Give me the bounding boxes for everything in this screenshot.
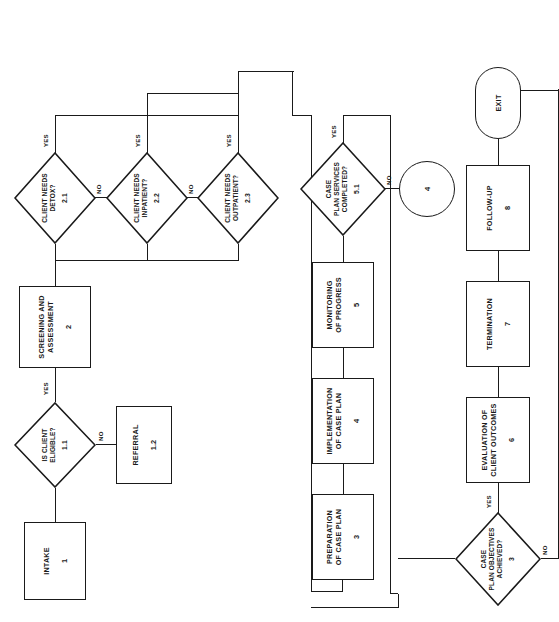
edge-detox-yes xyxy=(55,115,56,153)
label-line-2: ASSESSMENT xyxy=(46,301,55,353)
edge-label-inpatient-yes: YES xyxy=(135,133,141,148)
diamond-shape xyxy=(300,142,386,236)
edge-label-objectives-no: NO xyxy=(542,544,548,556)
edge-label-outpatient-yes: YES xyxy=(226,133,232,148)
edge-inpatient-no xyxy=(187,197,198,198)
node-exit[interactable]: EXIT xyxy=(475,67,521,139)
node-case-plan-objectives-achieved[interactable]: CASE PLAN OBJECTIVES ACHIEVED? 3 xyxy=(455,512,541,606)
edge-bus-to-inpatient xyxy=(147,244,148,261)
node-client-needs-inpatient[interactable]: CLIENT NEEDS INPATIENT? 2.2 xyxy=(106,152,188,244)
rail-detox-yes-riser xyxy=(55,115,239,116)
rail-to-preparation xyxy=(342,580,343,592)
node-follow-up-number: 8 xyxy=(503,206,512,210)
label-line-2: OF PROGRESS xyxy=(334,277,343,332)
node-termination[interactable]: TERMINATION 7 xyxy=(466,281,530,367)
diamond-shape xyxy=(14,152,96,244)
node-evaluation-of-client-outcomes[interactable]: EVALUATION OF CLIENT OUTCOMES 6 xyxy=(466,397,530,483)
node-termination-label: TERMINATION xyxy=(485,298,494,350)
node-follow-up-label: FOLLOW-UP xyxy=(485,185,494,231)
node-preparation-label: PREPARATION OF CASE PLAN xyxy=(325,509,343,566)
edge-label-services-yes: YES xyxy=(331,124,337,139)
edge-label-inpatient-no: NO xyxy=(188,183,194,195)
node-implementation-label: IMPLEMENTATION OF CASE PLAN xyxy=(325,387,343,454)
rail-outpatient-yes-riser xyxy=(238,71,294,72)
node-client-needs-outpatient[interactable]: CLIENT NEEDS OUTPATIENT? 2.3 xyxy=(197,152,279,244)
label-line-2: CLIENT OUTCOMES xyxy=(489,403,498,476)
node-is-client-eligible[interactable]: IS CLIENT ELIGIBLE? 1.1 xyxy=(14,402,96,488)
edge-inpatient-yes xyxy=(147,93,148,153)
node-follow-up[interactable]: FOLLOW-UP 8 xyxy=(466,165,530,251)
edge-label-detox-yes: YES xyxy=(43,133,49,148)
edge-label-objectives-yes: YES xyxy=(486,494,492,509)
edge-services-yes xyxy=(343,115,344,143)
edge-termination-to-followup xyxy=(498,251,499,281)
diamond-shape xyxy=(14,402,96,488)
node-exit-label: EXIT xyxy=(494,94,503,111)
rail-row2-return-top xyxy=(398,594,399,608)
edge-intake-to-eligible xyxy=(55,488,56,522)
edge-bus-to-outpatient xyxy=(238,244,239,261)
node-client-needs-detox[interactable]: CLIENT NEEDS DETOX? 2.1 xyxy=(14,152,96,244)
edge-label-eligible-no: NO xyxy=(98,430,104,442)
edge-bus-to-detox xyxy=(55,244,56,261)
rail-services-yes-to-row3 xyxy=(390,115,391,594)
rail-to-row2-drop xyxy=(292,115,312,116)
rail-inpatient-yes-riser xyxy=(147,93,239,94)
label-line-2: OF CASE PLAN xyxy=(334,393,343,450)
edge-preparation-to-implementation xyxy=(343,464,344,494)
node-intake-label: INTAKE xyxy=(42,547,51,575)
node-intake-number: 1 xyxy=(60,559,69,563)
label-line-2: OF CASE PLAN xyxy=(334,509,343,566)
edge-implementation-to-monitoring xyxy=(343,348,344,378)
edge-services-no xyxy=(385,188,399,189)
rail-row3-drop xyxy=(390,593,398,594)
node-referral-label: REFERRAL xyxy=(131,424,140,465)
node-screening-and-assessment[interactable]: SCREENING AND ASSESSMENT 2 xyxy=(19,286,91,368)
node-implementation-of-case-plan[interactable]: IMPLEMENTATION OF CASE PLAN 4 xyxy=(312,378,374,464)
node-monitoring-label: MONITORING OF PROGRESS xyxy=(325,277,343,332)
edge-evaluation-to-termination xyxy=(498,367,499,397)
node-referral[interactable]: REFERRAL 1.2 xyxy=(116,406,172,484)
connector-circle-4-number: 4 xyxy=(423,187,432,191)
rail-to-row2 xyxy=(292,71,293,116)
node-intake[interactable]: INTAKE 1 xyxy=(24,522,86,600)
node-case-plan-services-completed[interactable]: CASE PLAN SERVICES COMPLETED? 5.1 xyxy=(300,142,386,236)
edge-eligible-no xyxy=(96,444,116,445)
label-line-1: IMPLEMENTATION xyxy=(325,387,334,454)
node-evaluation-label: EVALUATION OF CLIENT OUTCOMES xyxy=(480,403,498,476)
edge-label-eligible-yes: YES xyxy=(43,381,49,396)
label-line-1: SCREENING AND xyxy=(37,295,46,358)
node-referral-number: 1.2 xyxy=(149,440,158,450)
edge-screening-to-bus xyxy=(55,260,56,286)
node-screening-number: 2 xyxy=(64,325,73,329)
node-implementation-number: 4 xyxy=(352,419,361,423)
edge-eligible-yes xyxy=(55,368,56,402)
edge-label-detox-no: NO xyxy=(96,183,102,195)
label-line-1: PREPARATION xyxy=(325,510,334,564)
rail-services-yes-riser xyxy=(343,115,391,116)
diamond-shape xyxy=(197,152,279,244)
node-monitoring-number: 5 xyxy=(352,303,361,307)
node-preparation-of-case-plan[interactable]: PREPARATION OF CASE PLAN 3 xyxy=(312,494,374,580)
connector-circle-4[interactable]: 4 xyxy=(399,161,455,217)
edge-followup-to-exit xyxy=(498,139,499,165)
diamond-shape xyxy=(455,512,541,606)
diamond-shape xyxy=(106,152,188,244)
edge-rail-into-objectives xyxy=(398,558,455,559)
edge-detox-no xyxy=(95,197,107,198)
edge-objectives-yes xyxy=(498,483,499,513)
label-line-1: EVALUATION OF xyxy=(480,410,489,471)
edge-objectives-no xyxy=(541,558,559,559)
node-preparation-number: 3 xyxy=(352,535,361,539)
node-termination-number: 7 xyxy=(503,322,512,326)
node-evaluation-number: 6 xyxy=(507,438,516,442)
rail-to-row2-enter xyxy=(311,591,343,592)
edge-outpatient-yes xyxy=(238,71,239,153)
node-screening-label: SCREENING AND ASSESSMENT xyxy=(37,295,55,358)
node-monitoring-of-progress[interactable]: MONITORING OF PROGRESS 5 xyxy=(312,262,374,348)
edge-monitoring-to-services-done xyxy=(343,236,344,262)
rail-row2-return xyxy=(311,607,398,608)
label-line-1: MONITORING xyxy=(325,280,334,329)
